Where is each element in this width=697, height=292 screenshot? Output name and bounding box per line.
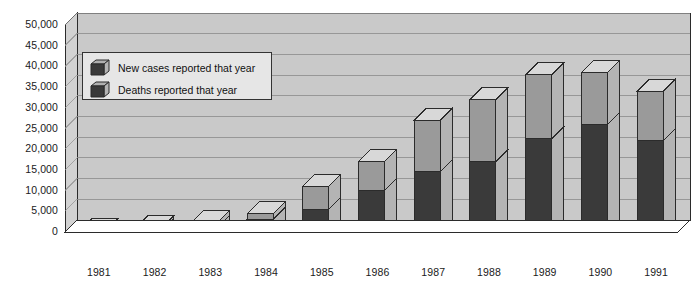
y-axis-tick-label: 40,000 <box>0 59 58 71</box>
new-cases-swatch <box>90 59 112 77</box>
x-axis-tick-label: 1984 <box>242 266 290 278</box>
y-axis-tick-label: 30,000 <box>0 101 58 113</box>
y-axis-tick-label: 0 <box>0 225 58 237</box>
chart-legend: New cases reported that yearDeaths repor… <box>82 52 272 100</box>
aids-cases-deaths-bar-chart: 05,00010,00015,00020,00025,00030,00035,0… <box>0 0 697 292</box>
chart-canvas <box>0 0 697 292</box>
deaths-swatch <box>90 81 112 99</box>
y-axis-tick-label: 20,000 <box>0 142 58 154</box>
x-axis-tick-label: 1981 <box>75 266 123 278</box>
x-axis-tick-label: 1988 <box>465 266 513 278</box>
x-axis-tick-label: 1987 <box>409 266 457 278</box>
y-axis-tick-label: 50,000 <box>0 18 58 30</box>
x-axis-tick-label: 1985 <box>298 266 346 278</box>
y-axis-tick-label: 10,000 <box>0 184 58 196</box>
y-axis-tick-label: 35,000 <box>0 80 58 92</box>
x-axis-tick-label: 1983 <box>186 266 234 278</box>
x-axis-tick-label: 1982 <box>131 266 179 278</box>
legend-item: Deaths reported that year <box>88 80 266 100</box>
y-axis-tick-label: 45,000 <box>0 39 58 51</box>
x-axis-tick-label: 1991 <box>632 266 680 278</box>
legend-label: Deaths reported that year <box>118 84 237 96</box>
y-axis-tick-label: 15,000 <box>0 163 58 175</box>
y-axis-tick-label: 5,000 <box>0 204 58 216</box>
x-axis-tick-label: 1986 <box>354 266 402 278</box>
plot-floor <box>65 220 690 232</box>
legend-label: New cases reported that year <box>118 62 255 74</box>
x-axis-tick-label: 1989 <box>521 266 569 278</box>
y-axis-tick-label: 25,000 <box>0 122 58 134</box>
legend-item: New cases reported that year <box>88 58 266 78</box>
x-axis-tick-label: 1990 <box>576 266 624 278</box>
